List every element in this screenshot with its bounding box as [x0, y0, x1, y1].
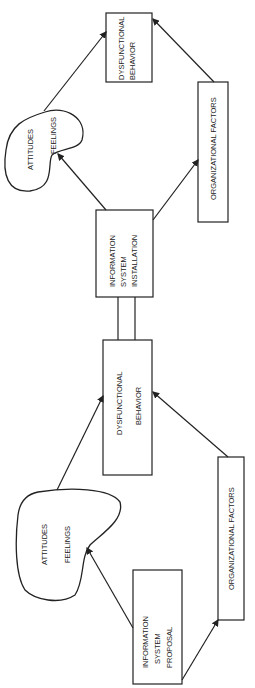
- feelings-label-top: FEELINGS: [49, 117, 58, 154]
- dysfunctional-behavior-box-bottom: [103, 340, 152, 475]
- diagram-canvas: DYSFUNCTIONAL BEHAVIOR ORGANIZATIONAL FA…: [0, 0, 255, 688]
- proposal-label-2: SYSTEM: [153, 633, 162, 664]
- arrow-blob-to-dysfunctional-top: [44, 32, 106, 111]
- proposal-label-3: PROPOSAL: [165, 627, 174, 668]
- org-factors-label-bottom: ORGANIZATIONAL FACTORS: [227, 487, 236, 590]
- dysfunctional-label-top-2: BEHAVIOR: [128, 41, 137, 80]
- installation-label-3: INSTALLATION: [130, 235, 139, 287]
- arrow-installation-to-org-top: [153, 160, 198, 220]
- installation-label-1: INFORMATION: [108, 235, 117, 287]
- arrow-org-to-dysfunctional-top: [153, 19, 214, 82]
- dysfunctional-label-top-1: DYSFUNCTIONAL: [117, 17, 126, 80]
- arrow-installation-to-blob-top: [58, 154, 106, 210]
- attitudes-label-bottom: ATTITUDES: [40, 524, 49, 565]
- arrow-org-to-dysfunctional-bottom: [153, 392, 228, 457]
- installation-label-2: SYSTEM: [119, 256, 128, 287]
- attitudes-feelings-blob-top: [5, 110, 83, 191]
- feelings-label-bottom: FEELINGS: [63, 526, 72, 563]
- dysfunctional-label-bottom-1: DYSFUNCTIONAL: [115, 372, 124, 435]
- attitudes-label-top: ATTITUDES: [26, 129, 35, 170]
- proposal-label-1: INFORMATION: [141, 616, 150, 668]
- dysfunctional-label-bottom-2: BEHAVIOR: [134, 386, 143, 425]
- org-factors-label-top: ORGANIZATIONAL FACTORS: [209, 97, 218, 200]
- arrow-proposal-to-blob-bottom: [87, 548, 133, 628]
- arrow-proposal-to-org-bottom: [182, 620, 218, 680]
- arrow-blob-to-dysfunctional-bottom: [57, 396, 103, 490]
